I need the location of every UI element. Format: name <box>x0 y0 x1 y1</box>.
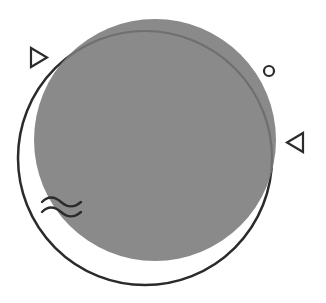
illustration-canvas: play-triangle-outline <box>0 0 326 303</box>
decorative-illustration <box>0 0 326 303</box>
